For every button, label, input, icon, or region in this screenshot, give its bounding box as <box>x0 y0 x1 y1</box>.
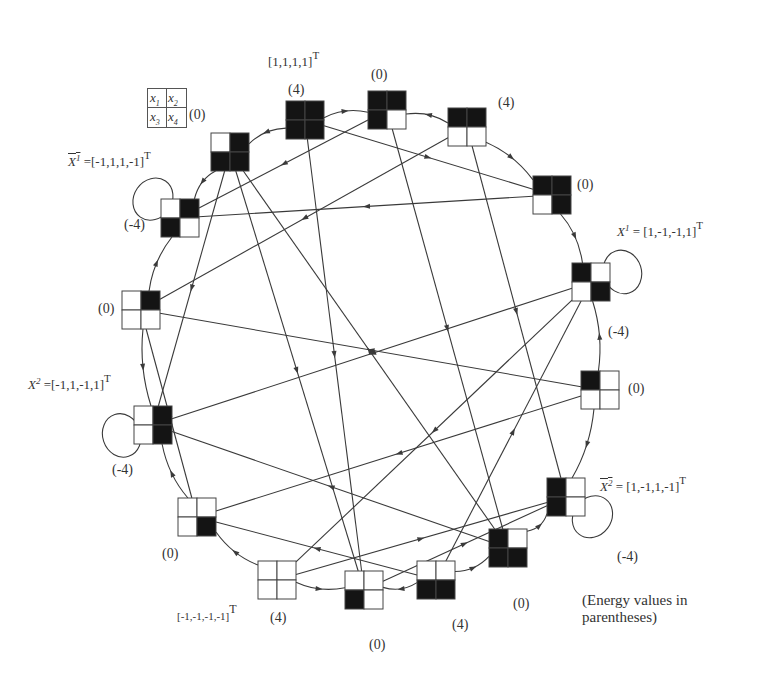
state-node-n5 <box>572 263 610 301</box>
x2-bar-vector-label: X2 = [1,-1,1,-1]T <box>600 475 686 493</box>
transition-edge <box>561 214 583 263</box>
neuron-cell <box>178 517 197 536</box>
state-node-n9 <box>417 561 455 599</box>
x2-vector-label: X2 =[-1,1,-1,1]T <box>28 373 111 391</box>
state-node-n16 <box>211 133 249 171</box>
state-node-n6 <box>581 371 619 409</box>
neuron-cell <box>467 127 486 146</box>
neuron-cell <box>600 390 619 409</box>
neuron-cell <box>600 371 619 390</box>
energy-label-n11: (4) <box>270 611 286 625</box>
all-minus-ones-vector-label: [-1,-1,-1,-1]T <box>177 603 237 622</box>
state-node-n4 <box>533 176 571 214</box>
energy-note-line-2: parentheses) <box>582 609 688 626</box>
legend-energy: (0) <box>189 108 205 122</box>
neuron-cell <box>258 561 277 580</box>
energy-note: (Energy values in parentheses) <box>582 592 688 626</box>
x1-bar-vector-label: X1 =[-1,1,1,-1]T <box>68 150 151 168</box>
legend-x1: x1 <box>150 91 160 108</box>
neuron-cell <box>566 497 585 516</box>
neuron-cell <box>508 529 527 548</box>
neuron-cell <box>122 310 141 329</box>
energy-label-n6: (0) <box>628 382 644 396</box>
neuron-cell <box>161 218 180 237</box>
neuron-cell <box>566 478 585 497</box>
arrowhead-icon <box>327 483 335 490</box>
neuron-cell <box>467 108 486 127</box>
arrowhead-icon <box>583 441 590 449</box>
transition-edge <box>194 171 215 199</box>
arrowhead-icon <box>153 259 160 267</box>
neuron-cell <box>197 517 216 536</box>
arrowhead-icon <box>188 284 195 292</box>
arrowhead-icon <box>513 307 520 315</box>
neuron-cell <box>141 310 160 329</box>
neuron-cell <box>305 101 324 120</box>
arrowhead-icon <box>597 333 603 340</box>
state-node-n10 <box>345 571 383 609</box>
neuron-cell <box>387 110 406 129</box>
energy-label-n4: (0) <box>577 178 593 192</box>
neuron-cell <box>364 590 383 609</box>
state-node-n14 <box>122 291 160 329</box>
neuron-cell <box>417 561 436 580</box>
state-node-n8 <box>489 529 527 567</box>
neuron-cell <box>417 580 436 599</box>
energy-label-n7: (-4) <box>617 550 638 564</box>
all-ones-vector-label: [1,1,1,1]T <box>268 50 319 68</box>
neuron-cell <box>258 580 277 599</box>
transition-edge <box>149 237 172 291</box>
energy-label-n8: (0) <box>513 597 529 611</box>
neuron-cell <box>581 390 600 409</box>
neuron-cell <box>572 282 591 301</box>
neuron-cell <box>552 195 571 214</box>
state-node-n15 <box>161 199 199 237</box>
neuron-cell <box>180 199 199 218</box>
arrowhead-icon <box>315 586 323 592</box>
state-transition-diagram <box>0 0 758 682</box>
energy-label-n3: (4) <box>498 96 514 110</box>
neuron-cell <box>161 199 180 218</box>
arrowhead-icon <box>168 469 176 477</box>
transition-edge <box>527 514 547 532</box>
neuron-cell <box>533 195 552 214</box>
neuron-cell <box>387 91 406 110</box>
legend-x2: x2 <box>168 91 178 108</box>
neuron-cell <box>591 282 610 301</box>
arrowhead-icon <box>300 214 309 222</box>
arrowhead-icon <box>313 545 321 552</box>
state-node-n1 <box>286 101 324 139</box>
neuron-cell <box>180 218 199 237</box>
neuron-cell <box>368 110 387 129</box>
energy-label-n2: (0) <box>371 68 387 82</box>
transition-edge <box>572 409 594 478</box>
neuron-cell <box>141 291 160 310</box>
energy-label-n14: (0) <box>98 302 114 316</box>
neuron-cell <box>230 152 249 171</box>
legend-grid: x1 x2 x3 x4 <box>147 88 187 128</box>
neuron-cell <box>591 263 610 282</box>
state-node-n11 <box>258 561 296 599</box>
neuron-cell <box>436 561 455 580</box>
state-node-n2 <box>368 91 406 129</box>
arrowhead-icon <box>280 160 289 168</box>
neuron-cell <box>153 425 172 444</box>
arrowhead-icon <box>460 540 468 547</box>
energy-label-n1: (4) <box>288 83 304 97</box>
neuron-cell <box>448 108 467 127</box>
neuron-cell <box>178 498 197 517</box>
energy-label-n9: (4) <box>452 618 468 632</box>
arrowhead-icon <box>395 450 403 457</box>
neuron-cell <box>368 91 387 110</box>
neuron-cell <box>552 176 571 195</box>
transition-edge <box>216 532 258 565</box>
neuron-cell <box>547 478 566 497</box>
state-node-n12 <box>178 498 216 536</box>
state-node-n7 <box>547 478 585 516</box>
energy-label-n12: (0) <box>162 547 178 561</box>
neuron-cell <box>197 498 216 517</box>
energy-label-n10: (0) <box>369 638 385 652</box>
arrowhead-icon <box>140 364 146 371</box>
neuron-cell <box>153 406 172 425</box>
neuron-cell <box>134 406 153 425</box>
